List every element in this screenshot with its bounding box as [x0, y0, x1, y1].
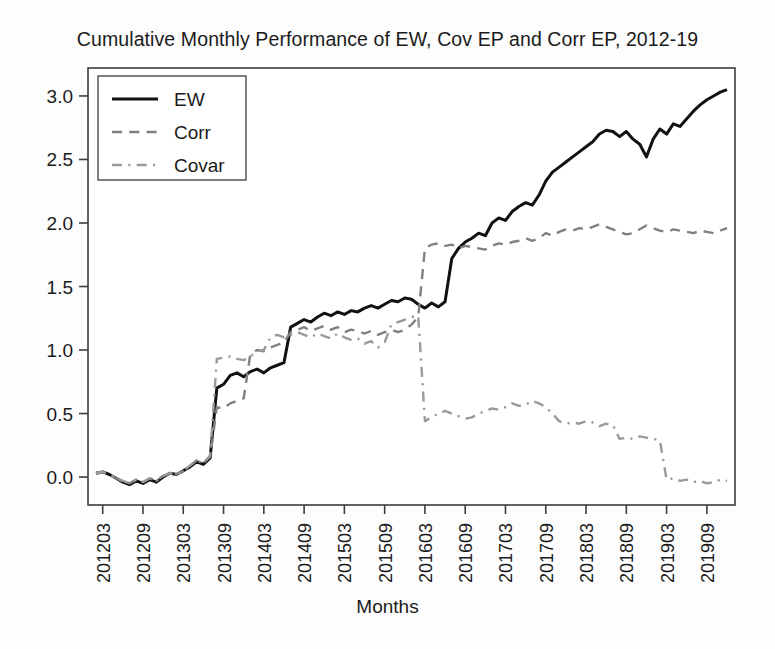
x-tick-label: 201609 [456, 523, 476, 583]
x-axis-ticks: 2012032012092013032013092014032014092015… [94, 505, 718, 583]
y-tick-label: 1.5 [47, 277, 73, 298]
y-tick-label: 3.0 [47, 86, 73, 107]
x-tick-label: 201403 [255, 523, 275, 583]
y-tick-label: 0.5 [47, 404, 73, 425]
legend-label-ew: EW [174, 89, 205, 110]
x-tick-label: 201303 [174, 523, 194, 583]
x-tick-label: 201409 [295, 523, 315, 583]
legend-label-covar: Covar [174, 155, 225, 176]
legend-label-corr: Corr [174, 122, 212, 143]
plot-area: 0.00.51.01.52.02.53.0 201203201209201303… [0, 0, 775, 649]
x-tick-label: 201603 [416, 523, 436, 583]
x-tick-label: 201703 [496, 523, 516, 583]
y-tick-label: 2.0 [47, 213, 73, 234]
x-tick-label: 201903 [658, 523, 678, 583]
y-axis-ticks: 0.00.51.01.52.02.53.0 [47, 86, 88, 488]
x-tick-label: 201509 [376, 523, 396, 583]
x-tick-label: 201909 [698, 523, 718, 583]
chart-figure: Cumulative Monthly Performance of EW, Co… [0, 0, 775, 649]
x-tick-label: 201709 [537, 523, 557, 583]
y-tick-label: 1.0 [47, 340, 73, 361]
x-tick-label: 201503 [335, 523, 355, 583]
x-tick-label: 201803 [577, 523, 597, 583]
x-tick-label: 201309 [215, 523, 235, 583]
x-tick-label: 201203 [94, 523, 114, 583]
y-tick-label: 2.5 [47, 149, 73, 170]
x-axis-label: Months [0, 596, 775, 618]
chart-legend: EWCorrCovar [98, 76, 246, 180]
x-tick-label: 201809 [617, 523, 637, 583]
y-tick-label: 0.0 [47, 467, 73, 488]
x-tick-label: 201209 [134, 523, 154, 583]
